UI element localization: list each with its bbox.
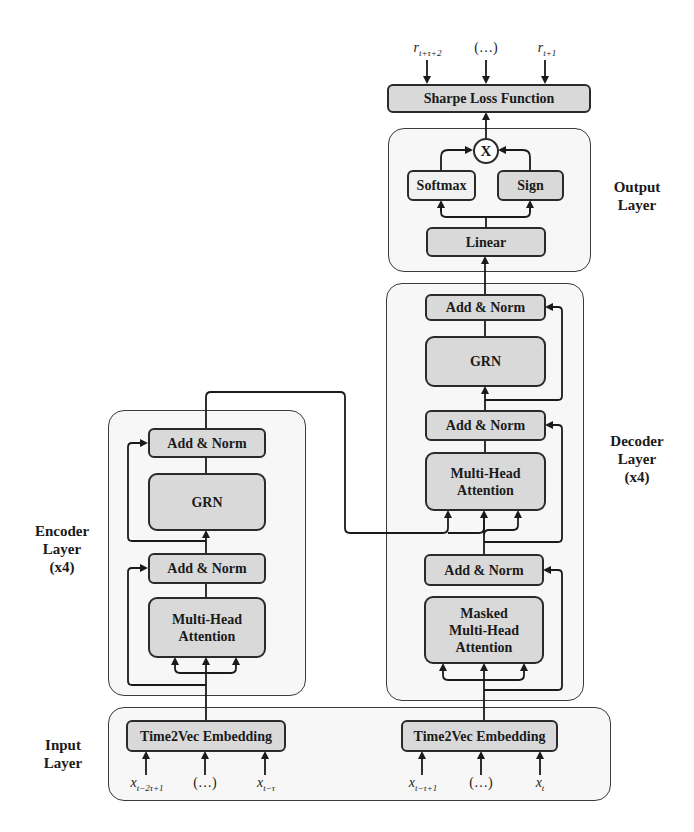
output-layer-title: Output Layer [598, 178, 676, 214]
encoder-time2vec-embedding: Time2Vec Embedding [126, 720, 286, 752]
encoder-input-ellipsis: (…) [185, 775, 225, 791]
var-subscript: t−τ [263, 783, 275, 793]
decoder-masked-multi-head-attention: Masked Multi-Head Attention [424, 596, 544, 664]
decoder-add-norm-2: Add & Norm [425, 410, 546, 441]
decoder-layer-title: Decoder Layer (x4) [598, 432, 676, 486]
title-line: (x4) [598, 468, 676, 486]
title-line: Layer [28, 754, 98, 772]
block-line: Attention [456, 639, 513, 656]
input-var-x-t: xt [526, 775, 554, 793]
title-line: Layer [598, 450, 676, 468]
sign-block: Sign [497, 170, 564, 201]
output-var-r-t-1: rt+1 [522, 40, 572, 58]
decoder-grn-block: GRN [425, 336, 546, 387]
var-subscript: t+τ+2 [419, 48, 441, 58]
block-line: Multi-Head [449, 622, 519, 639]
title-line: Input [28, 736, 98, 754]
input-var-x-t-2tau-1: xt−2τ+1 [116, 775, 178, 793]
decoder-add-norm-1: Add & Norm [424, 554, 544, 586]
var-subscript: t−2τ+1 [137, 783, 164, 793]
decoder-time2vec-embedding: Time2Vec Embedding [401, 720, 558, 752]
block-line: Multi-Head [172, 611, 242, 628]
softmax-block: Softmax [407, 170, 476, 201]
input-var-x-t-tau-1: xt−τ+1 [396, 775, 450, 793]
connection-wires [0, 0, 694, 832]
input-var-x-t-tau: xt−τ [243, 775, 289, 793]
decoder-multi-head-attention: Multi-Head Attention [425, 452, 546, 511]
block-line: Attention [457, 482, 514, 499]
title-line: Layer [598, 196, 676, 214]
multiply-node: X [473, 138, 499, 164]
encoder-add-norm-2: Add & Norm [148, 428, 266, 458]
encoder-grn-block: GRN [148, 473, 266, 531]
sharpe-loss-function-block: Sharpe Loss Function [387, 84, 591, 113]
var-subscript: t+1 [543, 48, 556, 58]
title-line: Layer [22, 540, 102, 558]
linear-block: Linear [426, 227, 546, 257]
input-layer-title: Input Layer [28, 736, 98, 772]
output-ellipsis: (…) [466, 40, 506, 56]
decoder-input-ellipsis: (…) [461, 775, 501, 791]
encoder-add-norm-1: Add & Norm [148, 553, 266, 584]
block-line: Attention [179, 628, 236, 645]
block-line: Masked [460, 605, 507, 622]
title-line: (x4) [22, 558, 102, 576]
output-var-r-t-tau-2: rt+τ+2 [400, 40, 455, 58]
title-line: Encoder [22, 522, 102, 540]
block-line: Multi-Head [451, 465, 521, 482]
decoder-add-norm-3: Add & Norm [425, 294, 546, 321]
encoder-multi-head-attention: Multi-Head Attention [148, 597, 266, 658]
title-line: Decoder [598, 432, 676, 450]
var-subscript: t [542, 783, 545, 793]
title-line: Output [598, 178, 676, 196]
var-subscript: t−τ+1 [415, 783, 437, 793]
encoder-layer-title: Encoder Layer (x4) [22, 522, 102, 576]
